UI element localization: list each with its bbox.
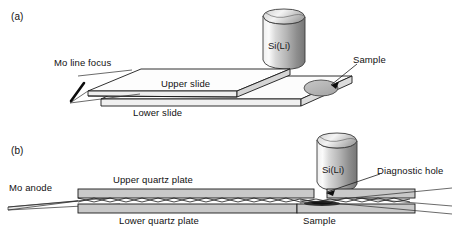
label-mo-line-focus: Mo line focus — [54, 58, 111, 68]
panel-b-tag: (b) — [11, 146, 24, 156]
label-lower-slide: Lower slide — [133, 108, 182, 118]
label-upper-quartz-plate: Upper quartz plate — [113, 175, 193, 185]
lower-quartz-plate — [78, 204, 415, 213]
label-mo-anode: Mo anode — [9, 183, 52, 193]
detector-label-a: Si(Li) — [268, 40, 290, 51]
sample-spot-a — [304, 80, 338, 96]
label-diagnostic-hole: Diagnostic hole — [377, 166, 443, 176]
figure-drawing — [0, 0, 454, 236]
detector-cylinder-b — [317, 133, 357, 191]
panel-a-tag: (a) — [11, 12, 24, 22]
figure-root: (a) Mo line focus Upper slide Lower slid… — [0, 0, 454, 236]
label-upper-slide: Upper slide — [161, 79, 210, 89]
label-lower-quartz-plate: Lower quartz plate — [119, 216, 199, 226]
label-sample-b: Sample — [303, 216, 336, 226]
label-sample-a: Sample — [353, 55, 386, 65]
detector-label-b: Si(Li) — [322, 164, 344, 175]
panel-a-drawing — [70, 9, 357, 106]
